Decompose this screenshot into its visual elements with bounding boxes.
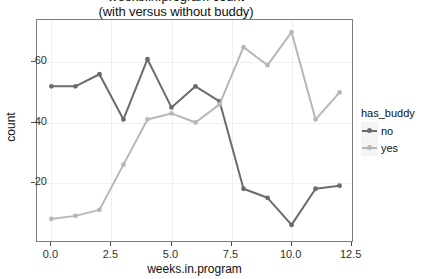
x-tick-mark [50,242,51,246]
x-tick-label: 2.5 [90,248,130,260]
x-tick-label: 12.5 [331,248,371,260]
legend-label: no [381,125,393,137]
series-line-yes [51,32,339,219]
data-point [217,102,222,107]
data-point [73,213,78,218]
plot-panel [36,19,353,242]
legend-item-no[interactable]: no [361,122,425,139]
data-point [97,207,102,212]
x-tick-label: 10.0 [271,248,311,260]
chart-subtitle: (with versus without buddy) [0,4,352,19]
plot-lines [37,20,353,242]
data-point [121,117,126,122]
data-point [289,223,294,228]
legend-title: has_buddy [361,107,425,119]
y-tick-label: 20 [17,175,47,187]
legend: has_buddy noyes [361,107,425,156]
legend-key-icon [361,122,378,139]
legend-label: yes [381,142,398,154]
x-tick-mark [110,242,111,246]
data-point [193,120,198,125]
data-point [265,195,270,200]
data-point [265,63,270,68]
x-tick-mark [231,242,232,246]
data-point [337,90,342,95]
x-tick-mark [171,242,172,246]
x-tick-mark [351,242,352,246]
data-point [241,45,246,50]
x-axis-label: weeks.in.program [36,262,353,276]
data-point [73,84,78,89]
data-point [121,162,126,167]
data-point [49,216,54,221]
chart-figure: weeks.in.program count (with versus with… [0,0,426,279]
x-tick-label: 5.0 [151,248,191,260]
data-point [313,117,318,122]
data-point [337,183,342,188]
legend-entries: noyes [361,122,425,156]
data-point [169,111,174,116]
legend-key-icon [361,139,378,156]
chart-title-block: weeks.in.program count (with versus with… [0,0,352,19]
data-point [97,72,102,77]
data-point [145,57,150,62]
x-tick-mark [291,242,292,246]
data-point [241,186,246,191]
data-point [193,84,198,89]
data-point [313,186,318,191]
legend-item-yes[interactable]: yes [361,139,425,156]
y-tick-label: 60 [17,54,47,66]
x-tick-label: 0.0 [30,248,70,260]
data-point [49,84,54,89]
data-point [289,30,294,35]
data-point [145,117,150,122]
data-point [169,105,174,110]
y-tick-label: 40 [17,115,47,127]
x-tick-label: 7.5 [211,248,251,260]
y-axis-label: count [4,97,18,157]
